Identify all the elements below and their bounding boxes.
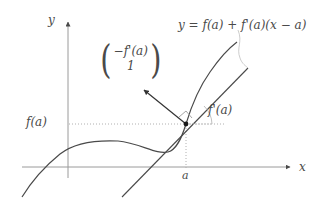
normal-vector-label: ( −f'(a) 1 ) xyxy=(98,40,164,78)
f-of-a-label: f(a) xyxy=(26,116,47,128)
slope-label: f'(a) xyxy=(208,104,232,116)
vector-left-paren: ( xyxy=(100,40,111,78)
math-figure: y x f(a) a f'(a) y = f(a) + f'(a)(x − a)… xyxy=(0,0,321,201)
x-tick-label-a: a xyxy=(182,170,189,181)
y-axis-label: y xyxy=(48,14,55,26)
tangent-equation-label: y = f(a) + f'(a)(x − a) xyxy=(178,19,306,31)
point-marker-icon xyxy=(184,122,189,127)
vector-right-paren: ) xyxy=(150,40,161,78)
normal-vector-arrow xyxy=(144,90,186,124)
vector-component-top: −f'(a) xyxy=(114,44,148,59)
x-axis-label: x xyxy=(299,161,306,173)
vector-component-bottom: 1 xyxy=(127,59,135,74)
label-leader-line xyxy=(238,30,248,68)
